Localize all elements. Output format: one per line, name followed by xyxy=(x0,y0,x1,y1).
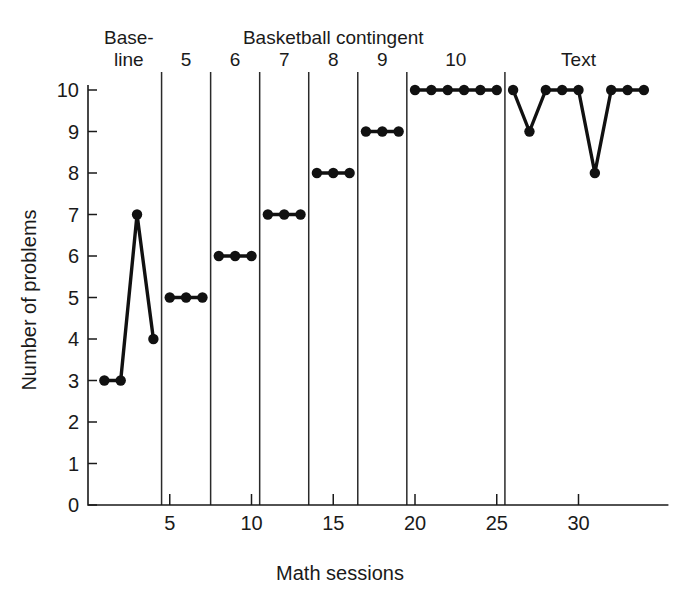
phase-label: line xyxy=(114,49,144,70)
data-point xyxy=(557,85,567,95)
data-point xyxy=(165,292,175,302)
data-point xyxy=(524,126,534,136)
data-point xyxy=(214,251,224,261)
y-tick-label: 8 xyxy=(68,162,79,184)
data-point xyxy=(377,126,387,136)
data-point xyxy=(573,85,583,95)
y-axis-title: Number of problems xyxy=(18,209,40,390)
data-point xyxy=(246,251,256,261)
data-point xyxy=(99,375,109,385)
y-tick-label: 2 xyxy=(68,411,79,433)
data-point xyxy=(443,85,453,95)
phase-label: 8 xyxy=(328,49,339,70)
data-point xyxy=(410,85,420,95)
y-tick-label: 5 xyxy=(68,287,79,309)
data-point xyxy=(148,334,158,344)
data-point xyxy=(639,85,649,95)
y-tick-label: 7 xyxy=(68,204,79,226)
data-point xyxy=(508,85,518,95)
data-point xyxy=(492,85,502,95)
data-point xyxy=(426,85,436,95)
x-tick-label: 5 xyxy=(164,512,175,534)
phase-divider-group xyxy=(162,72,505,505)
data-point xyxy=(197,292,207,302)
y-tick-label: 1 xyxy=(68,453,79,475)
data-point xyxy=(361,126,371,136)
x-tick-label: 25 xyxy=(486,512,508,534)
data-point xyxy=(116,375,126,385)
data-point xyxy=(312,168,322,178)
y-tick-label: 4 xyxy=(68,328,79,350)
phase-label: 10 xyxy=(445,49,466,70)
data-line-base-line xyxy=(104,215,153,381)
data-point xyxy=(622,85,632,95)
data-point xyxy=(279,209,289,219)
condition-label-group: Basketball contingent xyxy=(243,27,424,48)
phase-label: 6 xyxy=(230,49,241,70)
data-series-group xyxy=(99,85,649,386)
data-point xyxy=(459,85,469,95)
data-point xyxy=(132,209,142,219)
x-tick-label: 10 xyxy=(240,512,262,534)
data-point xyxy=(590,168,600,178)
data-point xyxy=(181,292,191,302)
axes-group xyxy=(88,85,668,505)
x-axis-title: Math sessions xyxy=(276,562,404,584)
data-point xyxy=(393,126,403,136)
y-tick-label: 10 xyxy=(57,79,79,101)
y-tick-label: 3 xyxy=(68,370,79,392)
changing-criterion-line-chart: Basketball contingent Base-line5678910Te… xyxy=(0,0,691,596)
axis-lines xyxy=(88,85,668,505)
phase-label: 9 xyxy=(377,49,388,70)
data-point xyxy=(328,168,338,178)
y-tick-label: 9 xyxy=(68,121,79,143)
data-point xyxy=(475,85,485,95)
condition-label: Basketball contingent xyxy=(243,27,424,48)
phase-label: 5 xyxy=(181,49,192,70)
y-tick-label: 0 xyxy=(68,494,79,516)
data-point xyxy=(230,251,240,261)
x-tick-label: 20 xyxy=(404,512,426,534)
y-axis-tick-group: 012345678910 xyxy=(57,79,97,516)
phase-label: Text xyxy=(561,49,597,70)
x-tick-label: 30 xyxy=(567,512,589,534)
data-point xyxy=(541,85,551,95)
x-axis-tick-group: 51015202530 xyxy=(164,494,589,534)
chart-figure: Basketball contingent Base-line5678910Te… xyxy=(0,0,691,596)
data-point xyxy=(344,168,354,178)
phase-label: 7 xyxy=(279,49,290,70)
y-tick-label: 6 xyxy=(68,245,79,267)
data-point xyxy=(606,85,616,95)
x-tick-label: 15 xyxy=(322,512,344,534)
phase-label-line1: Base- xyxy=(104,27,154,48)
data-point xyxy=(295,209,305,219)
data-point xyxy=(263,209,273,219)
